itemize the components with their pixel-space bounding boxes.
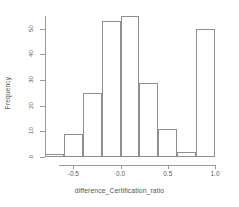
histogram-bar [64, 134, 83, 157]
histogram-plot: Frequency 01020304050 -0.50.00.51.0 diff… [0, 0, 239, 207]
histogram-bar [177, 152, 196, 157]
histogram-bar [139, 83, 158, 157]
histogram-bars [0, 0, 239, 207]
histogram-bar [83, 93, 102, 157]
histogram-bar [45, 154, 64, 157]
histogram-bar [102, 21, 121, 157]
histogram-bar [158, 129, 177, 157]
x-axis-title: difference_Certification_ratio [0, 187, 239, 194]
histogram-bar [196, 29, 215, 157]
histogram-bar [121, 16, 140, 157]
